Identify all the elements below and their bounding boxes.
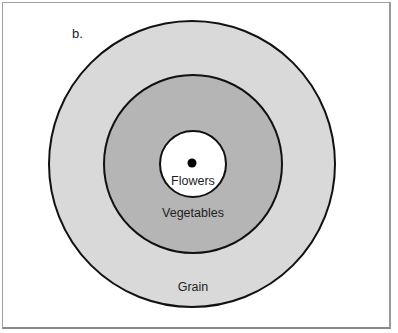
grain-label: Grain (178, 280, 209, 294)
flowers-label: Flowers (171, 174, 215, 188)
panel-label: b. (72, 26, 83, 41)
center-marker-dot (188, 159, 197, 168)
vegetables-label: Vegetables (162, 206, 224, 220)
concentric-land-use-diagram: b. Flowers Vegetables Grain (0, 0, 398, 333)
